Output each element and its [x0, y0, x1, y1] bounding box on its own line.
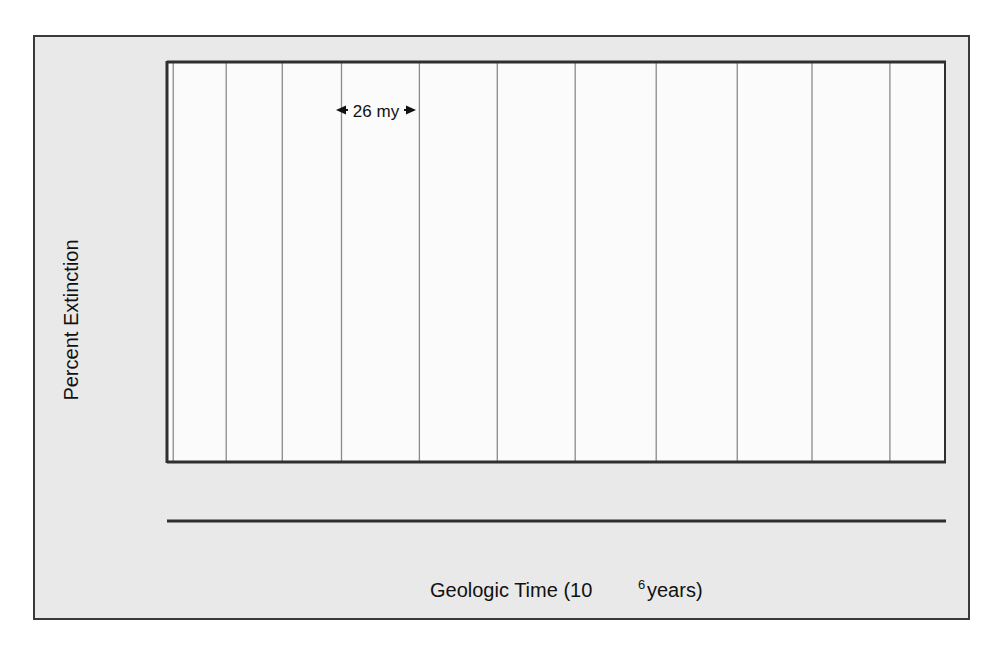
y-axis-title: Percent Extinction — [60, 239, 82, 400]
annotation-label: 26 my — [353, 102, 400, 121]
chart-canvas: 26 my Percent Extinction Geologic Time (… — [0, 0, 995, 645]
x-axis-title-tail: years) — [647, 579, 703, 601]
periodicity-annotation: 26 my — [336, 99, 416, 121]
figure-root: 26 my Percent Extinction Geologic Time (… — [0, 0, 995, 645]
x-axis-title-main: Geologic Time (10 — [430, 579, 592, 601]
x-axis-title-superscript: 6 — [638, 577, 645, 592]
plot-area-background — [167, 62, 946, 462]
x-axis-title: Geologic Time (10 6 years) — [430, 577, 703, 601]
